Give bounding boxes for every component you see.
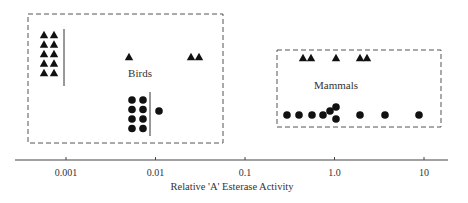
birds-label: Birds <box>128 67 152 79</box>
bird-triangle-marker <box>40 50 48 58</box>
bird-triangle-marker <box>40 69 48 77</box>
mammal-circle-marker <box>332 115 340 123</box>
bird-circle-marker <box>139 125 147 133</box>
esterase-activity-chart: Birds Mammals 0.0010.010.11.010 Relative… <box>0 0 468 203</box>
bird-triangle-marker <box>40 59 48 67</box>
mammal-circle-marker <box>295 111 303 119</box>
birds-group-box <box>28 14 223 143</box>
bird-triangle-marker <box>40 31 48 39</box>
bird-circle-marker <box>128 125 136 133</box>
x-axis-label: Relative 'A' Esterase Activity <box>170 181 294 192</box>
x-tick-label: 0.01 <box>147 167 165 178</box>
x-tick-label: 1.0 <box>328 167 341 178</box>
bird-triangle-marker <box>50 40 58 48</box>
bird-circle-marker <box>128 115 136 123</box>
bird-circle-marker <box>155 107 163 115</box>
mammal-circle-marker <box>308 111 316 119</box>
mammal-circle-marker <box>415 111 423 119</box>
mammal-circle-marker <box>332 103 340 111</box>
mammal-triangle-marker <box>299 54 307 62</box>
bird-triangle-marker <box>50 59 58 67</box>
mammal-triangle-marker <box>332 54 340 62</box>
bird-circle-marker <box>139 96 147 104</box>
mammal-circle-marker <box>356 111 364 119</box>
bird-triangle-marker <box>187 53 195 61</box>
mammal-circle-marker <box>283 111 291 119</box>
mammal-triangle-marker <box>363 54 371 62</box>
bird-circle-marker <box>139 115 147 123</box>
bird-triangle-marker <box>50 31 58 39</box>
mammal-circle-marker <box>319 111 327 119</box>
mammals-label: Mammals <box>314 79 358 91</box>
data-markers <box>40 31 423 133</box>
bird-circle-marker <box>139 106 147 114</box>
mammal-circle-marker <box>381 111 389 119</box>
x-tick-label: 0.001 <box>55 167 78 178</box>
bird-triangle-marker <box>50 50 58 58</box>
x-tick-label: 10 <box>419 167 429 178</box>
bird-triangle-marker <box>195 53 203 61</box>
mammal-triangle-marker <box>307 54 315 62</box>
mammal-triangle-marker <box>356 54 364 62</box>
bird-triangle-marker <box>125 53 133 61</box>
bird-circle-marker <box>128 106 136 114</box>
bird-triangle-marker <box>40 40 48 48</box>
x-tick-label: 0.1 <box>239 167 252 178</box>
bird-circle-marker <box>128 96 136 104</box>
bird-triangle-marker <box>50 69 58 77</box>
